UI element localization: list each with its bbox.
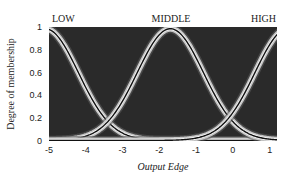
label-high: HIGH (251, 13, 276, 24)
x-tick-label: -2 (155, 145, 163, 155)
label-low: LOW (52, 13, 75, 24)
y-tick-label: 0.4 (29, 90, 42, 100)
y-axis: 00.20.40.60.81 (29, 22, 42, 146)
membership-chart: 00.20.40.60.81 -5-4-3-2-101 LOW MIDDLE H… (0, 0, 303, 177)
x-tick-label: 0 (230, 145, 235, 155)
y-tick-label: 0 (37, 136, 42, 146)
x-tick-label: -3 (119, 145, 127, 155)
label-middle: MIDDLE (152, 13, 191, 24)
y-tick-label: 1 (37, 22, 42, 32)
y-axis-title: Degree of membership (5, 38, 16, 130)
y-tick-label: 0.8 (29, 45, 42, 55)
x-tick-label: -5 (45, 145, 53, 155)
y-tick-label: 0.2 (29, 113, 42, 123)
x-tick-label: -1 (192, 145, 200, 155)
x-axis: -5-4-3-2-101 (45, 145, 272, 155)
x-tick-label: -4 (82, 145, 90, 155)
y-tick-label: 0.6 (29, 68, 42, 78)
x-tick-label: 1 (267, 145, 272, 155)
x-axis-title: Output Edge (138, 161, 189, 172)
